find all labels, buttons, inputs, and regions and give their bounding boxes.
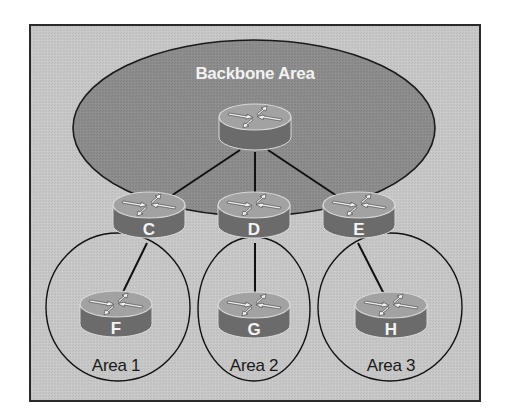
router-c: C (113, 192, 185, 239)
router-f-label: F (111, 319, 121, 338)
router-d-label: D (248, 220, 260, 239)
backbone-area-label: Backbone Area (195, 64, 315, 83)
router-core (219, 104, 291, 150)
router-g-label: G (247, 320, 260, 339)
router-d: D (218, 192, 290, 239)
router-e: E (323, 192, 395, 239)
ospf-area-diagram: Backbone Area C D E F G H Area 1 Area 2 … (0, 0, 505, 420)
area-3-label: Area 3 (367, 356, 415, 375)
router-h-label: H (385, 320, 397, 339)
area-2-label: Area 2 (230, 356, 278, 375)
router-h: H (355, 292, 427, 339)
router-f: F (80, 291, 152, 338)
router-icon (219, 104, 291, 150)
router-g: G (218, 292, 290, 339)
area-1-label: Area 1 (92, 356, 140, 375)
router-c-label: C (143, 220, 155, 239)
router-e-label: E (353, 220, 364, 239)
